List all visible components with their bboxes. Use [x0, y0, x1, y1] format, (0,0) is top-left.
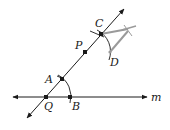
point-p	[83, 50, 87, 54]
label-q: Q	[44, 100, 53, 113]
label-line-m: m	[151, 91, 161, 104]
point-c	[99, 32, 103, 36]
label-p: P	[74, 39, 83, 52]
construction-diagram: Q B A P C D m	[0, 0, 170, 130]
point-a	[60, 77, 64, 81]
label-a: A	[44, 73, 53, 86]
label-b: B	[71, 100, 80, 113]
point-b	[68, 95, 72, 99]
point-q	[44, 95, 48, 99]
label-d: D	[109, 56, 119, 69]
label-c: C	[95, 17, 104, 30]
